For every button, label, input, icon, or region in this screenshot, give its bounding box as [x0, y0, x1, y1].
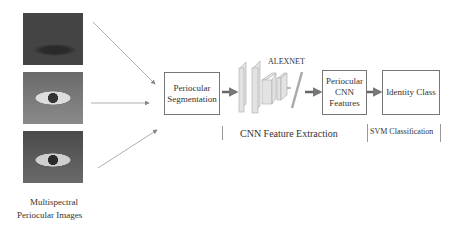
identity-class-box: Identity Class: [382, 70, 440, 115]
segmentation-line1: Periocular: [174, 83, 211, 94]
svm-section-divider-right: [440, 124, 441, 142]
svm-classification-label: SVM Classification: [370, 127, 433, 136]
periocular-segmentation-box: Periocular Segmentation: [164, 72, 220, 115]
connector-arrows: [0, 0, 459, 232]
periocular-cnn-features-box: Periocular CNN Features: [322, 70, 367, 115]
identity-class-label: Identity Class: [386, 87, 436, 98]
segmentation-line2: Segmentation: [167, 94, 217, 105]
features-line3: Features: [329, 98, 360, 109]
features-line2: CNN: [335, 87, 354, 98]
cnn-section-divider: [222, 126, 223, 140]
svm-section-divider-left: [367, 124, 368, 142]
alexnet-label: ALEXNET: [268, 57, 305, 66]
alexnet-layers: [239, 61, 287, 113]
features-line1: Periocular: [326, 76, 363, 87]
cnn-feature-extraction-label: CNN Feature Extraction: [240, 128, 338, 139]
